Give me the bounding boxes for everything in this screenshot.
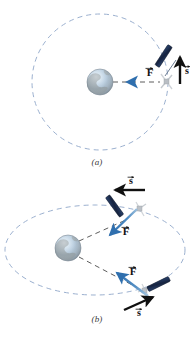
earth-globe-b <box>55 235 81 261</box>
cropped-bottom-text <box>0 333 194 340</box>
panel-a-caption: (a) <box>0 157 194 167</box>
force-label-a: F <box>147 66 154 78</box>
force-label-b-lower: F <box>130 265 137 277</box>
orbit-diagram-svg: F s <box>0 0 194 340</box>
force-label-b-upper: F <box>123 225 130 237</box>
earth-globe-a <box>87 69 113 95</box>
radius-line-b-upper <box>79 219 128 241</box>
satellite-b-lower <box>138 276 171 298</box>
satellite-b-upper <box>105 195 146 217</box>
panel-b-caption: (b) <box>0 314 194 324</box>
solar-panel-b-upper <box>105 195 123 217</box>
panel-b: F s <box>5 175 185 318</box>
solar-panel-b-lower <box>147 276 171 291</box>
solar-panel-a <box>155 45 176 76</box>
figure-root: F s <box>0 0 194 340</box>
panel-a: F s <box>32 14 190 150</box>
